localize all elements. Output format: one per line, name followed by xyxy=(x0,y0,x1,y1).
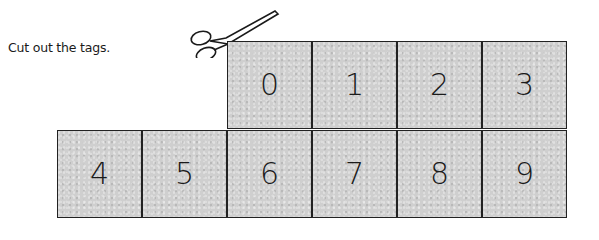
tag-digit: 3 xyxy=(515,70,534,100)
tag-3[interactable]: 3 xyxy=(482,41,567,129)
tag-4[interactable]: 4 xyxy=(57,130,142,218)
tag-digit: 5 xyxy=(175,159,194,189)
tag-7[interactable]: 7 xyxy=(312,130,397,218)
tag-0[interactable]: 0 xyxy=(227,41,312,129)
tag-digit: 6 xyxy=(260,159,279,189)
tag-digit: 7 xyxy=(345,159,364,189)
tag-9[interactable]: 9 xyxy=(482,130,567,218)
tag-2[interactable]: 2 xyxy=(397,41,482,129)
tag-digit: 2 xyxy=(430,70,449,100)
tag-digit: 0 xyxy=(260,70,279,100)
tag-6[interactable]: 6 xyxy=(227,130,312,218)
tag-digit: 8 xyxy=(430,159,449,189)
tag-digit: 1 xyxy=(345,70,364,100)
tag-8[interactable]: 8 xyxy=(397,130,482,218)
tag-digit: 9 xyxy=(515,159,534,189)
tag-1[interactable]: 1 xyxy=(312,41,397,129)
instruction-text: Cut out the tags. xyxy=(8,40,110,55)
tag-digit: 4 xyxy=(90,159,109,189)
tag-5[interactable]: 5 xyxy=(142,130,227,218)
